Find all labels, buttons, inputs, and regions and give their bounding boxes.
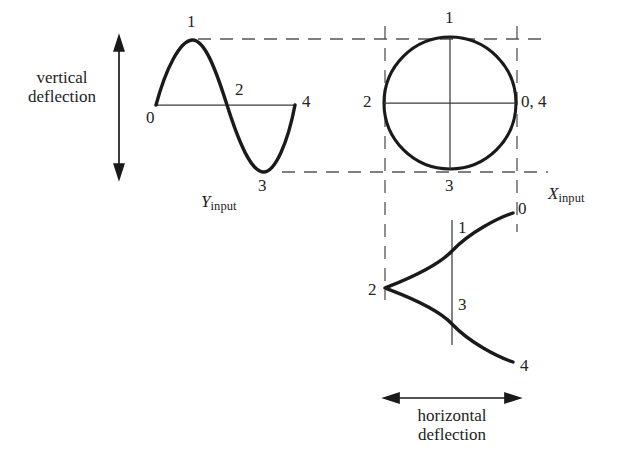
y-wave-curve: [156, 40, 295, 172]
lissajous-circle: [384, 37, 516, 169]
circle-mark-bottom: 3: [445, 176, 454, 195]
x-input-waveform: [385, 213, 513, 362]
vertical-deflection-line1: vertical: [14, 68, 110, 87]
x-wave-mark-4: 4: [520, 356, 529, 375]
x-wave-mark-1: 1: [458, 218, 467, 237]
vertical-deflection-arrow: [114, 36, 124, 179]
x-input-symbol: X: [548, 184, 558, 203]
y-wave-mark-2: 2: [235, 80, 244, 99]
x-input-axis-label: Xinput: [548, 184, 585, 205]
vertical-deflection-line2: deflection: [14, 87, 110, 106]
x-wave-mark-3: 3: [458, 295, 467, 314]
y-wave-mark-3: 3: [258, 176, 267, 195]
x-wave-mark-0: 0: [518, 199, 527, 218]
y-wave-mark-1: 1: [187, 12, 196, 31]
horizontal-deflection-line2: deflection: [392, 425, 512, 444]
y-wave-mark-4: 4: [302, 92, 311, 111]
circle-mark-right: 0, 4: [521, 92, 547, 111]
circle-mark-top: 1: [445, 8, 454, 27]
y-wave-mark-0: 0: [146, 108, 155, 127]
horizontal-deflection-line1: horizontal: [392, 406, 512, 425]
horizontal-deflection-arrow: [384, 393, 520, 403]
x-input-subscript: input: [558, 191, 584, 205]
horizontal-deflection-caption: horizontal deflection: [392, 406, 512, 444]
vertical-deflection-caption: vertical deflection: [14, 68, 110, 106]
x-wave-curve: [385, 213, 513, 362]
y-input-subscript: input: [210, 199, 236, 213]
y-input-waveform: [155, 40, 296, 172]
x-wave-mark-2: 2: [368, 280, 377, 299]
y-input-axis-label: Yinput: [201, 192, 237, 213]
circle-mark-left: 2: [363, 92, 372, 111]
